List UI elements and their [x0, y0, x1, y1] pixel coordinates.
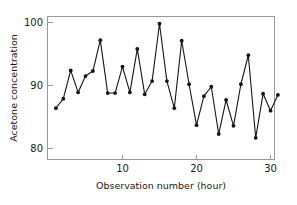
y-tick-label-80: 80 — [30, 143, 43, 154]
y-axis-title: Acetone concentration — [8, 34, 19, 142]
data-point — [69, 68, 73, 72]
chart-container: 100 90 80 10 20 30 Observation number (h… — [0, 0, 297, 205]
data-point — [84, 74, 88, 78]
data-point — [187, 82, 191, 86]
y-tick-label-90: 90 — [30, 80, 43, 91]
data-point — [113, 91, 117, 95]
data-point — [172, 106, 176, 110]
data-point — [106, 91, 110, 95]
data-point — [158, 22, 162, 26]
data-point — [98, 38, 102, 42]
x-tick-label-10: 10 — [116, 163, 129, 174]
data-point — [180, 39, 184, 43]
data-point — [121, 65, 125, 69]
data-point — [254, 136, 258, 140]
data-point — [269, 109, 273, 113]
data-point — [261, 92, 265, 96]
data-point — [54, 106, 58, 110]
data-point — [143, 92, 147, 96]
data-point — [61, 97, 65, 101]
data-point — [135, 47, 139, 51]
data-point — [224, 98, 228, 102]
y-tick-label-100: 100 — [24, 17, 43, 28]
x-axis-title: Observation number (hour) — [96, 180, 226, 191]
data-point — [209, 85, 213, 89]
x-tick-label-30: 30 — [264, 163, 277, 174]
data-point — [276, 93, 280, 97]
data-point — [202, 94, 206, 98]
data-point — [217, 132, 221, 136]
x-tick-label-20: 20 — [190, 163, 203, 174]
data-point — [239, 82, 243, 86]
data-point — [232, 124, 236, 128]
data-point — [76, 91, 80, 95]
data-point — [165, 79, 169, 83]
data-point — [246, 53, 250, 57]
data-point — [128, 91, 132, 95]
data-point — [195, 123, 199, 127]
acetone-concentration-line-chart: 100 90 80 10 20 30 Observation number (h… — [0, 0, 297, 205]
data-point — [91, 69, 95, 73]
data-point — [150, 79, 154, 83]
